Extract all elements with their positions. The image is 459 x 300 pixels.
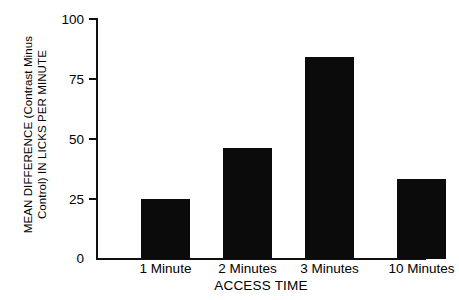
bar-1-minute bbox=[141, 199, 190, 259]
bar-3-minutes bbox=[305, 57, 354, 259]
y-tick-label-50: 50 bbox=[54, 133, 84, 147]
x-axis-title: ACCESS TIME bbox=[96, 279, 426, 294]
y-tick-mark-100 bbox=[89, 18, 96, 20]
y-tick-label-25: 25 bbox=[54, 193, 84, 207]
plot-area bbox=[98, 18, 426, 259]
y-tick-mark-50 bbox=[89, 138, 96, 140]
y-tick-label-0: 0 bbox=[54, 252, 84, 266]
y-axis-title-line-1: MEAN DIFFERENCE (Contrast Minus bbox=[22, 36, 36, 233]
bar-10-minutes bbox=[397, 179, 446, 259]
y-tick-mark-75 bbox=[89, 78, 96, 80]
y-tick-mark-25 bbox=[89, 198, 96, 200]
y-tick-label-75: 75 bbox=[54, 73, 84, 87]
x-tick-label-10-minutes: 10 Minutes bbox=[362, 262, 459, 277]
bar-2-minutes bbox=[223, 148, 272, 259]
y-axis-title-line-2: Control) IN LICKS PER MINUTE bbox=[36, 36, 50, 233]
y-tick-label-100: 100 bbox=[54, 13, 84, 27]
